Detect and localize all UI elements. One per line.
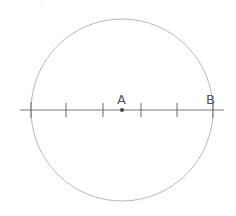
stray-dot	[41, 4, 42, 5]
center-point-a	[120, 108, 124, 112]
circle-diagram: A B	[0, 0, 236, 216]
label-a: A	[117, 92, 126, 107]
label-b: B	[206, 92, 215, 107]
